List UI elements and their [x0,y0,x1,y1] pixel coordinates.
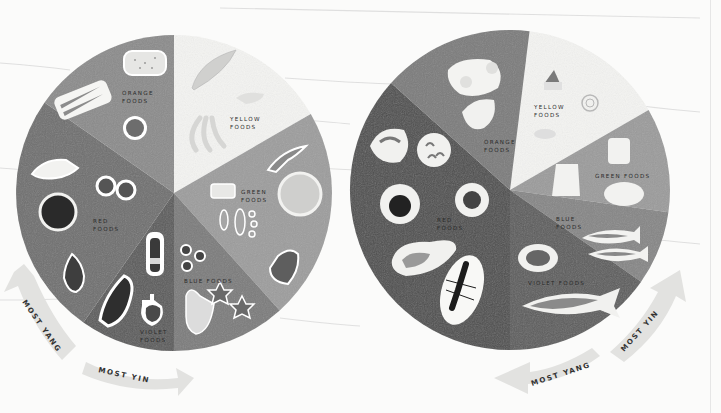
cheese-wheel-icon [604,182,644,206]
illustration-canvas: ORANGEFOODS YELLOWFOODS GREENFOODS REDFO… [0,0,721,413]
left-blue-label: BLUE FOODS [184,278,233,284]
tofu-icon [211,184,235,198]
soy-sauce-bottle-icon [146,232,164,276]
cheese-icon [534,129,556,139]
milk-glass-icon [608,138,630,164]
right-arrow-most-yang: MOST YANG [494,348,600,394]
shrimp-plate-icon [417,133,451,167]
fried-eggs-icon [448,59,501,96]
right-green-label: GREEN FOODS [595,173,650,179]
page-edge [710,0,711,413]
color-wheels-diagram: ORANGEFOODS YELLOWFOODS GREENFOODS REDFO… [0,0,721,413]
yogurt-cup-icon [552,164,580,196]
right-violet-label: VIOLET FOODS [528,280,585,286]
left-arrow-most-yin: MOST YIN [82,362,194,396]
red-cabbage-icon [40,194,76,230]
cabbage-icon [279,173,321,215]
